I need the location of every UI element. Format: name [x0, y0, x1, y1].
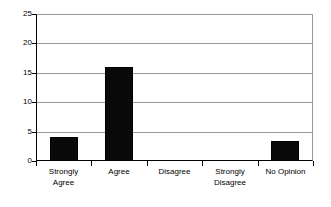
y-tick-label-10: 10 — [2, 98, 32, 106]
x-label-no-opinion-line1: No Opinion — [258, 166, 313, 177]
bar-strongly-agree — [50, 137, 78, 161]
y-tick-label-25: 25 — [2, 10, 32, 18]
bar-no-opinion — [271, 141, 299, 161]
x-label-agree-line1: Agree — [91, 166, 147, 177]
bar-chart: 25 20 15 10 5 0 Strongly Agree — [0, 0, 331, 207]
x-label-strongly-disagree-line1: Strongly — [202, 166, 258, 177]
x-label-disagree-line1: Disagree — [147, 166, 202, 177]
x-label-agree: Agree — [91, 166, 147, 177]
x-label-strongly-agree: Strongly Agree — [36, 166, 91, 188]
x-tick-mark-5 — [313, 161, 314, 166]
y-axis-labels: 25 20 15 10 5 0 — [0, 0, 32, 207]
y-tick-label-15: 15 — [2, 69, 32, 77]
x-label-no-opinion: No Opinion — [258, 166, 313, 177]
x-label-disagree: Disagree — [147, 166, 202, 177]
y-tick-label-20: 20 — [2, 39, 32, 47]
y-tick-label-0: 0 — [2, 157, 32, 165]
x-label-strongly-agree-line2: Agree — [36, 177, 91, 188]
y-tick-label-5: 5 — [2, 128, 32, 136]
x-label-strongly-agree-line1: Strongly — [36, 166, 91, 177]
x-axis-labels: Strongly Agree Agree Disagree Strongly D… — [36, 166, 313, 206]
x-label-strongly-disagree-line2: Disagree — [202, 177, 258, 188]
bar-agree — [105, 67, 133, 161]
bars-layer — [36, 14, 313, 161]
x-label-strongly-disagree: Strongly Disagree — [202, 166, 258, 188]
